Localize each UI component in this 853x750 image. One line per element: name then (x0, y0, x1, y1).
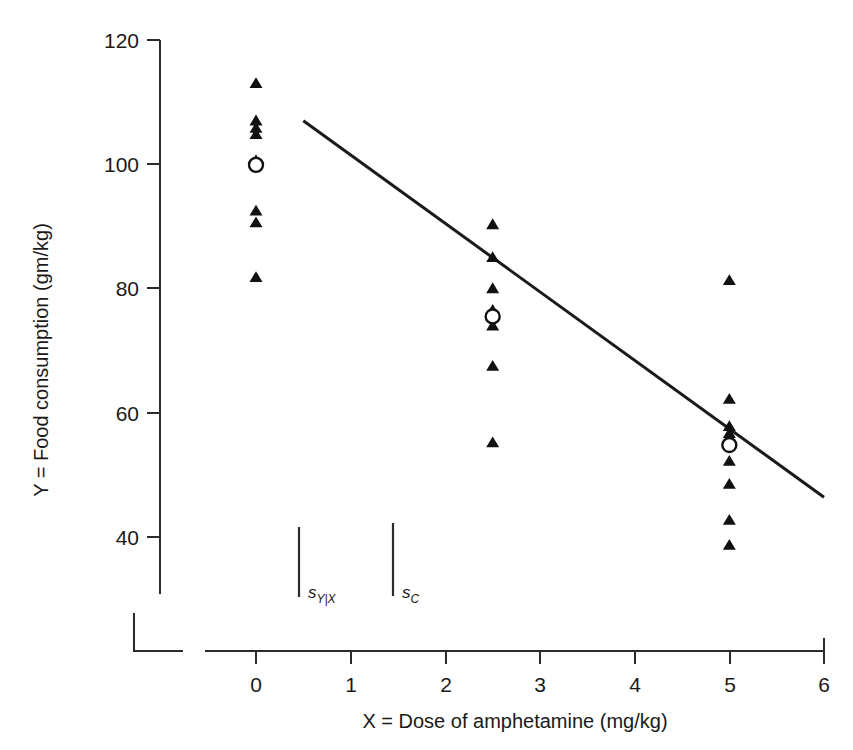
data-point-triangle (250, 205, 263, 216)
data-point-triangle (723, 455, 736, 466)
data-point-triangle (486, 282, 499, 293)
data-point-triangle (723, 514, 736, 525)
data-point-triangle (486, 218, 499, 229)
s-c-label: sC (402, 583, 420, 606)
data-point-triangle (723, 539, 736, 550)
data-markers-layer (249, 77, 736, 549)
y-tick-label-100: 100 (104, 153, 139, 176)
chart-figure: 120 100 80 60 40 Y = Food consumption (g… (0, 0, 853, 750)
y-tick-label-60: 60 (116, 402, 139, 425)
data-group-2 (723, 274, 736, 549)
data-point-triangle (723, 478, 736, 489)
group-mean-marker-2 (722, 438, 736, 452)
x-tick-labels: 0 1 2 3 4 5 6 (250, 673, 830, 696)
y-tick-label-120: 120 (104, 29, 139, 52)
data-point-triangle (486, 360, 499, 371)
x-tick-group (256, 651, 824, 664)
data-point-triangle (250, 271, 263, 282)
data-point-triangle (486, 436, 499, 447)
data-point-triangle (723, 274, 736, 285)
y-tick-label-80: 80 (116, 277, 139, 300)
x-tick-label-4: 4 (629, 673, 641, 696)
y-tick-labels: 120 100 80 60 40 (104, 29, 139, 549)
group-mean-marker-0 (249, 158, 263, 172)
x-tick-label-6: 6 (818, 673, 830, 696)
regression-line (303, 121, 824, 497)
scatter-plot-regression: 120 100 80 60 40 Y = Food consumption (g… (0, 0, 853, 750)
x-tick-label-1: 1 (345, 673, 357, 696)
data-point-triangle (723, 393, 736, 404)
y-tick-group (147, 40, 160, 537)
data-point-triangle (250, 77, 263, 88)
s-c-label-sub: C (411, 592, 420, 606)
x-axis-title: X = Dose of amphetamine (mg/kg) (362, 710, 667, 732)
s-y-given-x-label: sY|X (308, 583, 337, 606)
x-tick-label-0: 0 (250, 673, 262, 696)
s-y-given-x-label-sub: Y|X (317, 592, 337, 606)
group-mean-marker-1 (486, 309, 500, 323)
annotation-layer: sY|X sC (299, 523, 420, 606)
data-point-triangle (250, 216, 263, 227)
y-axis-title: Y = Food consumption (gm/kg) (30, 223, 52, 497)
x-axis: 0 1 2 3 4 5 6 X = Dose of amphetamine (m… (205, 638, 830, 732)
x-tick-label-2: 2 (440, 673, 452, 696)
data-group-0 (250, 77, 263, 282)
y-tick-label-40: 40 (116, 526, 139, 549)
x-tick-label-3: 3 (534, 673, 546, 696)
y-axis: 120 100 80 60 40 Y = Food consumption (g… (30, 29, 183, 651)
x-tick-label-5: 5 (724, 673, 736, 696)
